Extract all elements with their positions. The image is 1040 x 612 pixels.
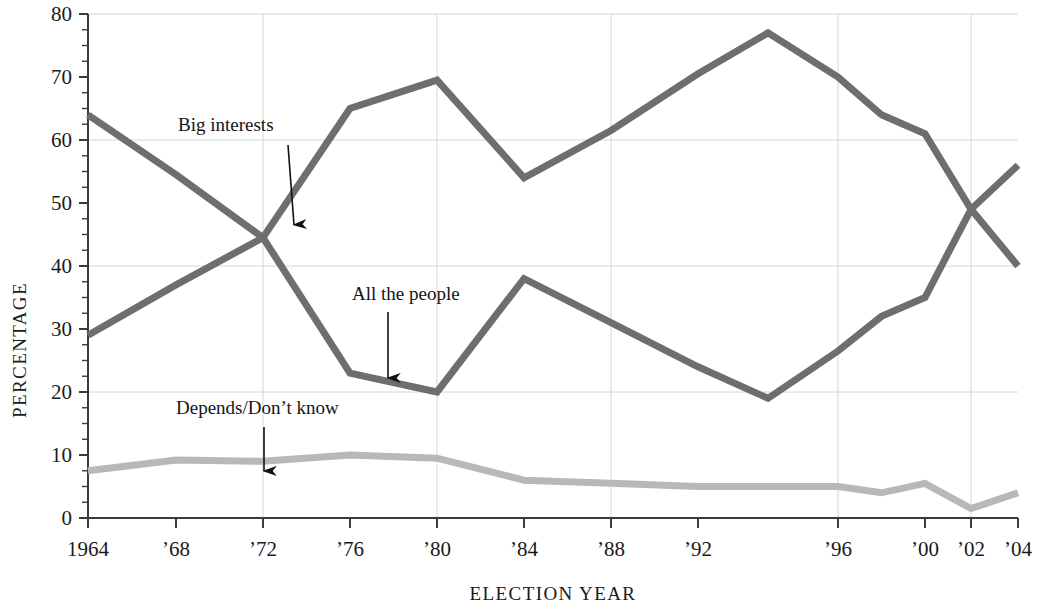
x-axis-tick-labels: 1964’68’72’76’80’84’88’92’96’00’02’04	[67, 537, 1032, 561]
x-axis-ticks	[88, 518, 1018, 528]
y-tick-label: 70	[51, 65, 72, 89]
y-axis-tick-labels: 01020304050607080	[51, 2, 72, 530]
y-tick-label: 60	[51, 128, 72, 152]
x-tick-label: ’96	[824, 537, 852, 561]
series-line	[88, 455, 1018, 509]
x-tick-label: ’68	[162, 537, 190, 561]
annotation-label: All the people	[352, 283, 460, 304]
annotations-group: Big interestsAll the peopleDepends/Don’t…	[176, 114, 460, 471]
x-tick-label: ’02	[957, 537, 985, 561]
y-tick-label: 30	[51, 317, 72, 341]
y-tick-label: 20	[51, 380, 72, 404]
x-tick-label: ’76	[336, 537, 364, 561]
series-line	[88, 33, 1018, 266]
x-tick-label: ’84	[510, 537, 538, 561]
series-line	[88, 165, 1018, 398]
y-axis-title: PERCENTAGE	[9, 282, 30, 418]
annotation-label: Big interests	[178, 114, 274, 135]
line-chart: 01020304050607080 1964’68’72’76’80’84’88…	[0, 0, 1040, 612]
y-tick-label: 80	[51, 2, 72, 26]
y-tick-label: 50	[51, 191, 72, 215]
grid-lines	[88, 14, 1018, 518]
x-tick-label: ’72	[249, 537, 277, 561]
x-tick-label: ’92	[684, 537, 712, 561]
data-series-group	[88, 33, 1018, 509]
x-axis-title: ELECTION YEAR	[470, 583, 637, 604]
y-tick-label: 0	[62, 506, 73, 530]
chart-container: 01020304050607080 1964’68’72’76’80’84’88…	[0, 0, 1040, 612]
y-tick-label: 40	[51, 254, 72, 278]
x-tick-label: ’88	[597, 537, 625, 561]
y-tick-label: 10	[51, 443, 72, 467]
x-tick-label: ’04	[1004, 537, 1032, 561]
annotation-arrow-icon	[288, 145, 294, 225]
x-tick-label: ’00	[911, 537, 939, 561]
x-tick-label: ’80	[423, 537, 451, 561]
annotation-label: Depends/Don’t know	[176, 397, 339, 418]
x-tick-label: 1964	[67, 537, 110, 561]
y-axis-ticks	[79, 14, 88, 518]
